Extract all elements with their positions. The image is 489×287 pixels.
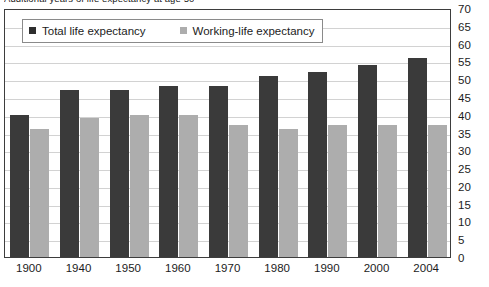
chart-legend: Total life expectancy Working-life expec… xyxy=(22,19,323,43)
x-axis-tick-label: 1900 xyxy=(7,262,51,275)
bar-total-life-expectancy xyxy=(110,90,129,257)
bar-working-life-expectancy xyxy=(30,129,49,257)
bar-total-life-expectancy xyxy=(60,90,79,257)
bar-working-life-expectancy xyxy=(179,115,198,257)
y-axis-tick-label: 50 xyxy=(458,74,482,86)
legend-swatch-working-icon xyxy=(180,27,187,34)
legend-label-total: Total life expectancy xyxy=(42,25,146,37)
y-axis-tick-label: 5 xyxy=(458,234,482,246)
bar-working-life-expectancy xyxy=(80,118,99,257)
bar-total-life-expectancy xyxy=(308,72,327,257)
x-axis: 190019401950196019701980199020002004 xyxy=(4,262,451,282)
bars-layer xyxy=(5,10,450,257)
y-axis-tick-label: 20 xyxy=(458,181,482,193)
y-axis-tick-label: 0 xyxy=(458,252,482,264)
x-axis-tick-label: 2004 xyxy=(404,262,448,275)
bar-working-life-expectancy xyxy=(279,129,298,257)
bar-group xyxy=(60,10,100,257)
bar-working-life-expectancy xyxy=(328,125,347,257)
bar-group xyxy=(159,10,199,257)
y-axis-tick-label: 35 xyxy=(458,128,482,140)
bar-group xyxy=(10,10,50,257)
x-axis-tick-label: 1970 xyxy=(206,262,250,275)
chart-title: Additional years of life expectancy at a… xyxy=(4,0,194,5)
chart-figure: Additional years of life expectancy at a… xyxy=(0,0,489,287)
bar-group xyxy=(110,10,150,257)
bar-group xyxy=(358,10,398,257)
x-axis-tick-label: 1940 xyxy=(57,262,101,275)
y-axis-tick-label: 40 xyxy=(458,110,482,122)
y-axis-tick-label: 70 xyxy=(458,3,482,15)
bar-total-life-expectancy xyxy=(259,76,278,257)
bar-total-life-expectancy xyxy=(159,86,178,257)
x-axis-tick-label: 2000 xyxy=(355,262,399,275)
bar-group xyxy=(259,10,299,257)
bar-group xyxy=(408,10,448,257)
bar-total-life-expectancy xyxy=(408,58,427,257)
legend-label-working: Working-life expectancy xyxy=(193,25,315,37)
bar-total-life-expectancy xyxy=(209,86,228,257)
y-axis-tick-label: 30 xyxy=(458,145,482,157)
x-axis-tick-label: 1990 xyxy=(305,262,349,275)
bar-working-life-expectancy xyxy=(130,115,149,257)
x-axis-tick-label: 1980 xyxy=(255,262,299,275)
legend-item-total: Total life expectancy xyxy=(29,25,146,37)
y-axis-tick-label: 60 xyxy=(458,39,482,51)
y-axis-tick-label: 55 xyxy=(458,56,482,68)
bar-working-life-expectancy xyxy=(229,125,248,257)
x-axis-tick-label: 1950 xyxy=(106,262,150,275)
legend-item-working: Working-life expectancy xyxy=(180,25,315,37)
y-axis: 7065605550454035302520151050 xyxy=(458,0,486,287)
bar-group xyxy=(308,10,348,257)
y-axis-tick-label: 10 xyxy=(458,216,482,228)
plot-area xyxy=(4,9,451,258)
legend-swatch-total-icon xyxy=(29,27,36,34)
y-axis-tick-label: 25 xyxy=(458,163,482,175)
bar-total-life-expectancy xyxy=(358,65,377,257)
x-axis-tick-label: 1960 xyxy=(156,262,200,275)
bar-group xyxy=(209,10,249,257)
y-axis-tick-label: 65 xyxy=(458,21,482,33)
bar-working-life-expectancy xyxy=(428,125,447,257)
y-axis-tick-label: 15 xyxy=(458,199,482,211)
y-axis-tick-label: 45 xyxy=(458,92,482,104)
bar-working-life-expectancy xyxy=(378,125,397,257)
bar-total-life-expectancy xyxy=(10,115,29,257)
